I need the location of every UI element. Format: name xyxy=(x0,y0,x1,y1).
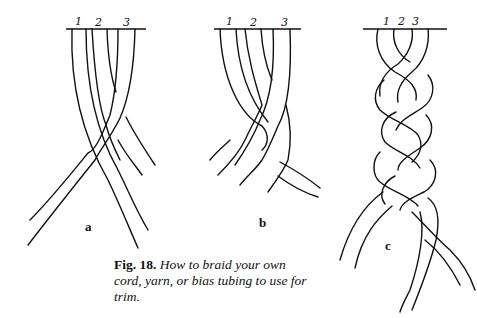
panel-b-drawing: 1 2 3 xyxy=(210,15,320,197)
panel-a-num-3: 3 xyxy=(123,16,130,29)
figure-number: Fig. 18. xyxy=(114,257,156,272)
panel-c-num-2: 2 xyxy=(397,15,405,28)
figure-caption: Fig. 18. How to braid your own cord, yar… xyxy=(114,257,314,305)
panel-a-drawing: 1 2 3 xyxy=(28,15,155,248)
panel-a-num-2: 2 xyxy=(94,16,102,29)
panel-a-num-1: 1 xyxy=(75,15,82,28)
panel-c-num-3: 3 xyxy=(412,15,419,28)
panel-b-label: b xyxy=(259,215,266,231)
panel-c-label: c xyxy=(385,238,391,254)
panel-b-num-1: 1 xyxy=(226,15,233,28)
panel-a-label: a xyxy=(85,219,92,235)
panel-b-num-3: 3 xyxy=(281,16,288,29)
panel-b-num-2: 2 xyxy=(249,16,257,29)
panel-c-num-1: 1 xyxy=(383,15,390,28)
panel-c-drawing: 1 2 3 xyxy=(340,15,475,312)
